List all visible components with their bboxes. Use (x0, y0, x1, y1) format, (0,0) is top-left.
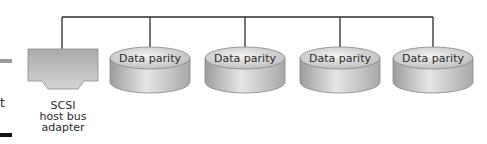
left-text-fragment: t (0, 96, 5, 110)
disk-4: Data parity (393, 47, 473, 93)
disk-2: Data parity (205, 47, 285, 93)
scsi-diagram: t SCSI host bus adapter Data parity Data… (0, 0, 487, 144)
disk-label: Data parity (119, 52, 181, 65)
disk-3: Data parity (300, 47, 380, 93)
disk-label: Data parity (402, 52, 464, 65)
host-bus-adapter: SCSI host bus adapter (28, 49, 98, 134)
disk-label: Data parity (309, 52, 371, 65)
black-bar-fragment (0, 133, 12, 137)
gray-bar-fragment (0, 59, 12, 63)
adapter-label-line-3: adapter (41, 121, 85, 134)
disk-label: Data parity (214, 52, 276, 65)
disk-1: Data parity (110, 47, 190, 93)
